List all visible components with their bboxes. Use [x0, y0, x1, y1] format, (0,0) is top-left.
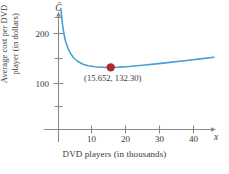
y-axis-title-line1: Average cost per DVD [0, 0, 10, 104]
average-cost-curve [61, 9, 214, 68]
x-tick-label-10: 10 [87, 134, 97, 144]
chart-plot-area: 200 100 10 20 30 40 C̄ x (15.652, 132.30… [0, 0, 229, 174]
x-tick-label-30: 30 [155, 134, 165, 144]
y-axis-title: Average cost per DVD player (in dollars) [0, 0, 23, 104]
x-axis-title: DVD players (in thousands) [0, 149, 229, 159]
minimum-point-marker[interactable] [107, 63, 115, 71]
y-axis-title-line2: player (in dollars) [10, 0, 21, 104]
y-tick-label-100: 100 [36, 79, 50, 89]
x-axis-variable-label: x [213, 132, 219, 142]
x-tick-label-20: 20 [121, 134, 131, 144]
average-cost-chart-figure: 200 100 10 20 30 40 C̄ x (15.652, 132.30… [0, 0, 229, 174]
y-tick-label-200: 200 [36, 29, 50, 39]
x-tick-label-40: 40 [189, 134, 199, 144]
minimum-point-label: (15.652, 132.30) [84, 73, 141, 83]
